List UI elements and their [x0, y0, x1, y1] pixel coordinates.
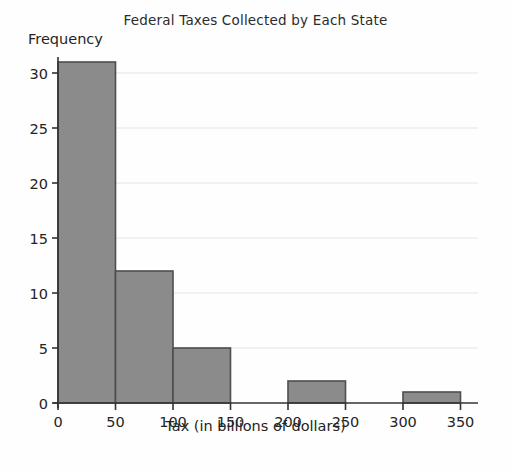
y-tick-label-5: 5 [39, 341, 48, 357]
y-tick-label-25: 25 [30, 121, 48, 137]
y-tick-label-20: 20 [30, 176, 48, 192]
histogram-bar-50-100 [116, 271, 174, 403]
y-tick-label-0: 0 [39, 396, 48, 412]
histogram-bar-0-50 [58, 62, 116, 403]
y-tick-label-30: 30 [30, 66, 48, 82]
y-tick-label-15: 15 [30, 231, 48, 247]
histogram-bar-300-350 [403, 392, 461, 403]
y-tick-label-10: 10 [30, 286, 48, 302]
histogram-bar-200-250 [288, 381, 346, 403]
histogram-plot: 051015202530050100150200250300350 [0, 0, 511, 472]
histogram-figure: Federal Taxes Collected by Each State Fr… [0, 0, 511, 472]
x-axis-label: Tax (in billions of dollars) [0, 418, 511, 434]
histogram-bar-100-150 [173, 348, 231, 403]
